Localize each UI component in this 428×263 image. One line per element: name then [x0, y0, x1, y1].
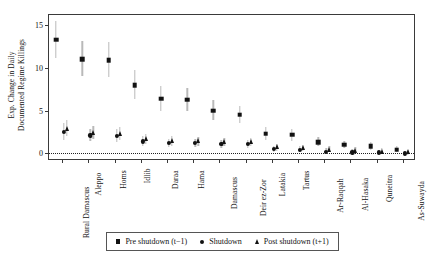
x-axis-category-label: Ar-Raqqah [336, 178, 345, 213]
data-point-triangle [406, 149, 410, 154]
data-point-triangle [222, 139, 226, 144]
x-axis-category-label: Tartus [302, 171, 311, 190]
data-point-square [395, 148, 400, 153]
x-axis-category-label: Quneitra [385, 175, 394, 202]
y-axis-label-line1: Exp. Change in Daily [7, 51, 16, 118]
legend-circle-icon [200, 240, 204, 244]
x-axis-category-label: Aleppo [94, 172, 103, 195]
data-point-square [185, 97, 190, 102]
legend-item-label: Post shutdown (t+1) [264, 237, 329, 246]
data-point-triangle [196, 138, 200, 143]
y-axis-tick-label: 0 [39, 149, 43, 158]
legend-item: Pre shutdown (t−1) [116, 237, 187, 246]
y-axis-label-line2: Documented Regime Killings [17, 39, 26, 131]
data-point-square [237, 113, 242, 118]
x-axis-category-label: Hama [197, 170, 206, 189]
legend-item-label: Pre shutdown (t−1) [125, 237, 187, 246]
data-point-square [368, 144, 373, 149]
data-point-square [264, 131, 269, 136]
x-axis-category-labels: Rural DamascusAleppoHomsIdlibDaraaHamaDa… [48, 161, 415, 223]
data-point-triangle [353, 148, 357, 153]
plot-area: 051015 [48, 14, 415, 160]
data-point-square [159, 96, 164, 101]
data-point-square [290, 132, 295, 137]
chart-figure: Exp. Change in Daily Documented Regime K… [0, 0, 428, 263]
y-axis-tick-label: 10 [35, 63, 43, 72]
data-point-triangle [65, 125, 69, 130]
data-point-triangle [249, 139, 253, 144]
x-axis-category-label: Idlib [143, 168, 152, 183]
legend-item-label: Shutdown [209, 237, 241, 246]
data-point-square [54, 37, 59, 42]
legend-item: Shutdown [200, 237, 241, 246]
zero-reference-line [49, 153, 414, 154]
plot-inner: 051015 [49, 15, 414, 159]
x-axis-category-label: Rural Damascus [82, 187, 91, 238]
legend-square-icon [116, 239, 120, 243]
data-point-triangle [301, 145, 305, 150]
data-point-triangle [275, 144, 279, 149]
data-point-square [80, 57, 85, 62]
data-point-triangle [118, 131, 122, 136]
chart-legend: Pre shutdown (t−1)ShutdownPost shutdown … [106, 232, 339, 251]
data-point-square [316, 140, 321, 145]
data-point-triangle [327, 147, 331, 152]
data-point-square [211, 108, 216, 113]
y-axis-label: Exp. Change in Daily Documented Regime K… [0, 0, 36, 170]
data-point-triangle [144, 136, 148, 141]
x-axis-category-label: Damascus [230, 177, 239, 209]
data-point-triangle [380, 148, 384, 153]
data-point-square [106, 58, 111, 63]
x-axis-category-label: Homs [118, 170, 127, 189]
legend-triangle-icon [255, 239, 259, 244]
x-axis-category-label: Daraa [171, 170, 180, 189]
x-axis-category-label: Latakia [278, 173, 287, 196]
x-axis-category-label: As-Suwayda [417, 181, 426, 221]
data-point-triangle [91, 130, 95, 135]
data-point-triangle [170, 138, 174, 143]
x-axis-category-label: Deir ez-Zor [258, 179, 267, 216]
y-axis-tick-label: 15 [35, 21, 43, 30]
legend-item: Post shutdown (t+1) [255, 237, 329, 246]
y-axis-tick [45, 25, 49, 26]
data-point-square [342, 142, 347, 147]
y-axis-tick-label: 5 [39, 106, 43, 115]
data-point-square [132, 83, 137, 88]
x-axis-category-label: Al-Hasaka [362, 178, 371, 211]
y-axis-tick [45, 111, 49, 112]
y-axis-tick [45, 68, 49, 69]
